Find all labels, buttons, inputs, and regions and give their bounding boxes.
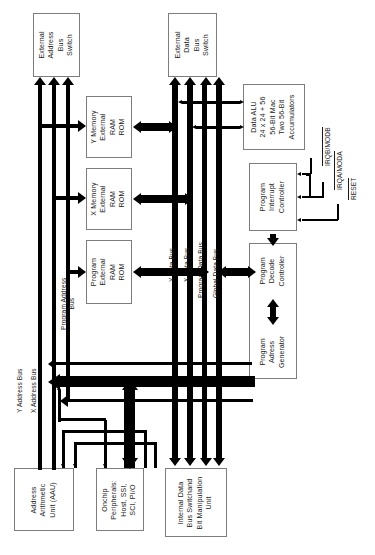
arrowhead-data-alu-a-left (178, 100, 182, 104)
arrowhead-program-address-bus-in (60, 395, 68, 407)
block-internal-data-bus-switch: Internal Data Bus Switchand Bit Manipula… (165, 468, 227, 537)
bus-label-program-address-bus: Program Address Bus (60, 278, 77, 330)
arrowhead-program-address-up (62, 77, 74, 85)
arrowhead-decode-right (248, 266, 256, 278)
arrowhead-y-data-up (169, 77, 181, 85)
bus-label-x-data-bus: X Data Bus (183, 248, 192, 282)
feeder-aau-b-riser (154, 442, 157, 468)
arrowhead-x-data-up (184, 77, 196, 85)
signal-tick-irqa (322, 182, 324, 198)
block-line: Decode (268, 256, 277, 287)
block-onchip-peripherals: Onchip Peripherals: Host, SSI, SCI, PI/O (96, 468, 144, 531)
bus-line-y-address (38, 85, 42, 470)
block-line: Onchip (101, 480, 110, 520)
arrowhead-irqb-in (297, 172, 301, 176)
block-line: External (100, 110, 109, 143)
signal-line-irqa-h (302, 196, 323, 198)
block-line: Data ALU (250, 95, 259, 140)
arrowhead-reset-in (297, 218, 301, 222)
arrowhead-program-memory-in (78, 266, 86, 278)
block-line: RAM (109, 182, 118, 216)
signal-line-irqb (309, 174, 311, 196)
arrowhead-data-alu-b-left (192, 125, 196, 129)
block-line: Program (259, 256, 268, 287)
block-line: Interrupt (268, 181, 277, 213)
bus-label-line: Bus (68, 278, 76, 330)
arrowhead-decode-pag-down (267, 317, 279, 325)
arrowhead-decode-left (218, 266, 226, 278)
block-line: Adress (268, 336, 277, 368)
bus-label-x-address-bus: X Address Bus (30, 368, 39, 413)
feeder-aau-a (62, 430, 146, 433)
arrowhead-global-data-down (213, 458, 225, 466)
arrowhead-aau-to-thin-bus (57, 386, 61, 390)
block-line: Accumulators (288, 95, 297, 140)
bus-label-y-address-bus: Y Address Bus (16, 369, 25, 413)
riser-onchip-peripherals-thick (124, 387, 135, 468)
arrowhead-x-address-up (48, 77, 60, 85)
signal-text-irqa-moda: IRQA/MODA (334, 151, 344, 190)
block-line: Host, SSI, (120, 480, 129, 520)
line-pag-to-program-address-bus (68, 399, 253, 402)
block-x-memory: X Memory External RAM ROM (86, 168, 132, 230)
arrowhead-aau-x-address (52, 428, 56, 432)
block-line: Two 56-Bit (279, 95, 288, 140)
signal-tick-reset (337, 204, 339, 220)
block-line: Switch (66, 31, 75, 58)
block-diagram-canvas: External Address Bus Switch External Dat… (0, 0, 375, 555)
riser-data-alu-a (218, 101, 221, 128)
block-line: Data (183, 31, 192, 58)
line-aau-to-x-address (53, 432, 56, 468)
branch-x-addr-to-x-memory (54, 196, 78, 200)
block-line: External (100, 182, 109, 216)
block-line: ROM (118, 110, 127, 143)
block-line: Arithmetic (39, 482, 48, 517)
line-aau-to-y-address (39, 432, 42, 468)
bus-line-x-address (52, 85, 56, 470)
arrowhead-y-memory-in (78, 120, 86, 132)
arrowhead-data-alu-b-right (240, 125, 244, 129)
signal-text-irqb-modb: IRQB/MODB (322, 127, 332, 166)
riser-aau-to-thin-bus (58, 390, 61, 422)
arrowhead-program-data-down (200, 458, 212, 466)
arrowhead-lower-thin-bus-left (48, 358, 56, 370)
block-line: External (100, 258, 109, 286)
signal-label-reset: RESET (348, 178, 358, 200)
line-lower-thin-bus (56, 362, 252, 365)
block-line: RAM (109, 110, 118, 143)
bus-label-line: Program Address (60, 278, 68, 330)
block-program-address-generator: Program Adress Generator (249, 325, 297, 379)
block-line: X Memory (90, 182, 99, 216)
block-line: Address (47, 31, 56, 58)
arrowhead-global-data-up (213, 77, 225, 85)
link-program-memory-program-data (141, 268, 201, 276)
block-program-decode-controller: Program Decode Controller (249, 243, 297, 299)
signal-line-reset-h (302, 219, 338, 221)
block-program-memory: Program External RAM ROM (86, 240, 132, 304)
arrowhead-x-memory-in (78, 192, 86, 204)
block-ext-addr-switch: External Address Bus Switch (33, 13, 80, 77)
signal-text-reset: RESET (348, 178, 358, 200)
block-line: Controller (278, 181, 287, 213)
link-data-alu-bus-a (182, 101, 240, 104)
arrowhead-decode-pag-up (267, 299, 279, 307)
feeder-aau-a-riser (144, 430, 147, 468)
arrowhead-x-memory-link-right (185, 193, 193, 205)
block-line: Bus (57, 31, 66, 58)
block-line: External (38, 31, 47, 58)
riser-data-alu-b (204, 101, 207, 128)
block-line: Bit Manipulation (196, 476, 205, 529)
block-line: Address (30, 482, 39, 517)
block-line: Switch (202, 31, 211, 58)
link-decode-controller-bus (226, 268, 248, 276)
arrowhead-program-memory-link-left (133, 266, 141, 278)
link-x-memory-x-data (141, 195, 185, 203)
block-line: Bus Switchand (187, 476, 196, 529)
block-line: SCI, PI/O (129, 480, 138, 520)
bus-line-program-address (66, 85, 70, 401)
arrowhead-pic-decode-down (267, 238, 279, 246)
signal-label-irqa-moda: IRQA/MODA (334, 151, 344, 190)
block-ext-data-switch: External Data Bus Switch (168, 13, 217, 77)
block-line: Y Memory (90, 110, 99, 143)
arrowhead-y-memory-link-right (169, 121, 177, 133)
